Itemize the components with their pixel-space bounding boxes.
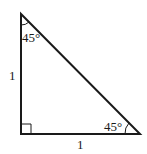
triangle-diagram: 45° 45° 1 1 — [0, 0, 147, 154]
top-angle-label: 45° — [22, 30, 40, 45]
left-side-label: 1 — [9, 68, 16, 83]
bottom-right-angle-label: 45° — [104, 119, 122, 134]
bottom-side-label: 1 — [77, 137, 84, 152]
bottom-right-angle-arc — [125, 123, 129, 134]
top-angle-arc — [21, 22, 29, 25]
right-angle-marker — [21, 124, 31, 134]
